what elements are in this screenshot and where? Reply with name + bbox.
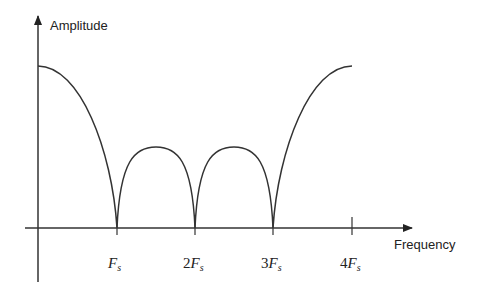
tick-label-2fs: 2Fs — [183, 255, 204, 273]
tick-label-fs: Fs — [107, 255, 121, 273]
spectrum-diagram: Amplitude Frequency Fs 2Fs 3Fs 4Fs — [0, 0, 479, 290]
tick-label-4fs: 4Fs — [340, 255, 361, 273]
y-axis-label: Amplitude — [50, 18, 108, 33]
svg-text:4Fs: 4Fs — [340, 255, 361, 273]
spectrum-curve — [38, 66, 352, 228]
svg-text:Fs: Fs — [107, 255, 121, 273]
svg-text:3Fs: 3Fs — [261, 255, 282, 273]
tick-label-3fs: 3Fs — [261, 255, 282, 273]
x-axis-label: Frequency — [394, 237, 456, 252]
svg-text:2Fs: 2Fs — [183, 255, 204, 273]
